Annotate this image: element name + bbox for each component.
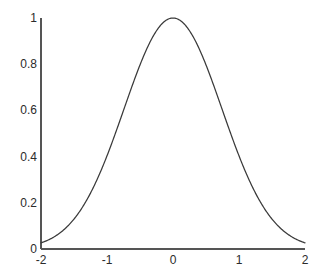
- x-tick-label: 2: [302, 254, 309, 266]
- x-tick-label: 1: [236, 254, 243, 266]
- y-tick-label: 0.2: [20, 197, 37, 209]
- y-tick-label: 0.4: [20, 151, 37, 163]
- y-tick-label: 1: [30, 12, 37, 24]
- gaussian-plot: [0, 0, 323, 277]
- gaussian-curve: [41, 18, 305, 243]
- x-tick-label: 0: [170, 254, 177, 266]
- series-group: [41, 18, 305, 243]
- y-tick-label: 0.8: [20, 58, 37, 70]
- x-tick-label: -1: [102, 254, 113, 266]
- chart-figure: 00.20.40.60.81 -2-1012: [0, 0, 323, 277]
- y-tick-label: 0.6: [20, 104, 37, 116]
- x-tick-label: -2: [36, 254, 47, 266]
- axes-group: [41, 18, 305, 249]
